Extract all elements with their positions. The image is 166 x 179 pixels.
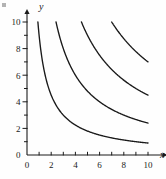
svg-text:8: 8: [122, 160, 127, 170]
svg-text:0: 0: [16, 150, 21, 160]
svg-text:2: 2: [49, 160, 54, 170]
curve-3: [112, 22, 148, 62]
svg-text:10: 10: [144, 160, 154, 170]
y-axis-label: y: [39, 2, 43, 12]
svg-text:2: 2: [16, 124, 21, 134]
svg-text:6: 6: [97, 160, 102, 170]
svg-text:10: 10: [12, 17, 22, 27]
hyperbola-family-figure: 24681024681000 y x: [0, 0, 166, 179]
svg-text:6: 6: [16, 71, 21, 81]
svg-text:0: 0: [25, 160, 30, 170]
curve-0: [38, 22, 148, 143]
svg-text:4: 4: [16, 97, 21, 107]
curve-2: [81, 22, 148, 95]
svg-text:8: 8: [16, 44, 21, 54]
x-axis-label: x: [160, 150, 164, 160]
svg-text:4: 4: [73, 160, 78, 170]
chart-canvas: 24681024681000: [0, 0, 166, 179]
curve-1: [56, 22, 148, 123]
